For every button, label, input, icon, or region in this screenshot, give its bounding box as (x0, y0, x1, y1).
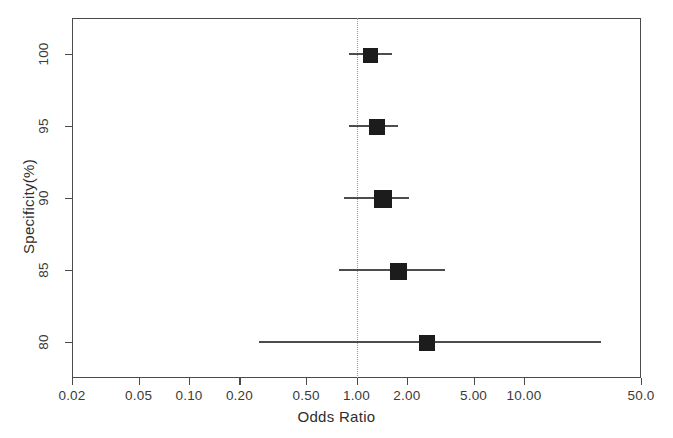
x-tick-label: 50.0 (627, 388, 654, 403)
x-tick-label: 0.02 (58, 388, 85, 403)
x-tick (524, 378, 525, 385)
x-tick-label: 1.00 (343, 388, 370, 403)
point-estimate-marker (390, 263, 407, 280)
x-tick (357, 378, 358, 385)
y-tick (65, 198, 72, 199)
x-tick-label: 10.00 (507, 388, 542, 403)
y-tick (65, 126, 72, 127)
y-axis-title: Specificity(%) (20, 127, 37, 287)
point-estimate-marker (419, 335, 435, 351)
x-tick (72, 378, 73, 385)
y-tick-label: 95 (36, 109, 51, 143)
y-tick (65, 54, 72, 55)
forest-plot-figure: 0.020.050.100.200.501.002.005.0010.0050.… (0, 0, 673, 438)
y-tick-label: 90 (36, 181, 51, 215)
y-tick (65, 270, 72, 271)
x-tick-label: 0.50 (293, 388, 320, 403)
x-tick (139, 378, 140, 385)
point-estimate-marker (363, 48, 378, 63)
x-tick (474, 378, 475, 385)
point-estimate-marker (374, 190, 392, 208)
x-tick (239, 378, 240, 385)
y-tick-label: 80 (36, 325, 51, 359)
x-tick (407, 378, 408, 385)
x-tick-label: 0.20 (226, 388, 253, 403)
x-tick (189, 378, 190, 385)
x-tick-label: 0.05 (125, 388, 152, 403)
x-tick-label: 0.10 (175, 388, 202, 403)
x-axis-title: Odds Ratio (0, 408, 673, 425)
x-tick-label: 5.00 (460, 388, 487, 403)
y-tick-label: 100 (36, 37, 51, 71)
x-tick (306, 378, 307, 385)
y-tick (65, 342, 72, 343)
y-tick-label: 85 (36, 253, 51, 287)
x-tick (641, 378, 642, 385)
point-estimate-marker (369, 119, 385, 135)
x-tick-label: 2.00 (393, 388, 420, 403)
